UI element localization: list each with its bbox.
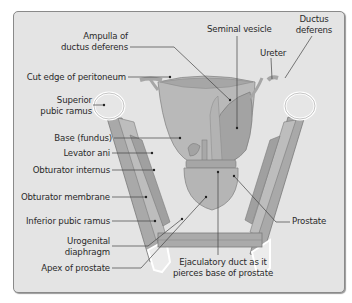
label-superior-pubic-ramus: Superiorpubic ramus xyxy=(30,95,92,117)
label-apex-of-prostate: Apex of prostate xyxy=(14,263,110,274)
label-base-fundus: Base (fundus) xyxy=(30,133,112,144)
label-ureter: Ureter xyxy=(260,48,286,59)
label-levator-ani: Levator ani xyxy=(30,148,110,159)
label-urogenital-diaphragm: Urogenitaldiaphragm xyxy=(30,236,110,258)
label-cut-edge-peritoneum: Cut edge of peritoneum xyxy=(14,72,126,83)
label-seminal-vesicle: Seminal vesicle xyxy=(207,24,272,35)
label-ductus-deferens: Ductusdeferens xyxy=(292,14,336,36)
label-obturator-internus: Obturator internus xyxy=(14,165,110,176)
label-ejaculatory-duct: Ejaculatory duct as itpierces base of pr… xyxy=(168,257,278,279)
prostate-shape xyxy=(184,168,238,210)
label-inferior-pubic-ramus: Inferior pubic ramus xyxy=(14,216,110,227)
label-prostate: Prostate xyxy=(292,216,326,227)
right-pelvic-wall xyxy=(245,93,315,276)
label-obturator-membrane: Obturator membrane xyxy=(14,192,110,203)
label-ampulla: Ampulla ofductus deferens xyxy=(30,31,128,53)
